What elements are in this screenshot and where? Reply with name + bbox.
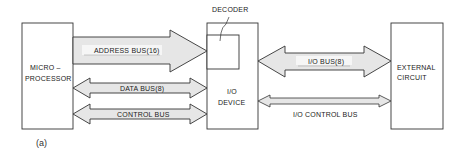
io-device-label-2: DEVICE (218, 99, 245, 106)
address-bus-arrow: ADDRESS BUS(16) (73, 30, 207, 72)
io-device-block: DECODER I/O DEVICE (207, 6, 258, 129)
external-circuit-label-2: CIRCUIT (397, 74, 427, 81)
data-bus-label: DATA BUS(8) (120, 85, 164, 93)
external-circuit-block: EXTERNAL CIRCUIT (391, 23, 443, 129)
io-control-bus-label: I/O CONTROL BUS (293, 111, 358, 118)
data-bus-arrow: DATA BUS(8) (73, 78, 207, 98)
microprocessor-label-1: MICRO – (30, 64, 61, 71)
figure-caption: (a) (36, 138, 47, 148)
control-bus-arrow: CONTROL BUS (73, 104, 207, 124)
io-device-label-1: I/O (227, 88, 237, 95)
microprocessor-label-2: PROCESSOR (25, 75, 72, 82)
external-circuit-label-1: EXTERNAL (397, 64, 436, 71)
io-control-bus-arrow: I/O CONTROL BUS (258, 95, 391, 118)
io-interface-diagram: MICRO – PROCESSOR DECODER I/O DEVICE EXT… (0, 0, 463, 158)
io-bus-label: I/O BUS(8) (308, 58, 344, 66)
control-bus-label: CONTROL BUS (117, 111, 170, 118)
decoder-block (207, 35, 239, 69)
address-bus-label: ADDRESS BUS(16) (94, 47, 160, 55)
decoder-label: DECODER (212, 6, 248, 13)
io-bus-arrow: I/O BUS(8) (258, 46, 391, 77)
microprocessor-block: MICRO – PROCESSOR (22, 23, 73, 129)
